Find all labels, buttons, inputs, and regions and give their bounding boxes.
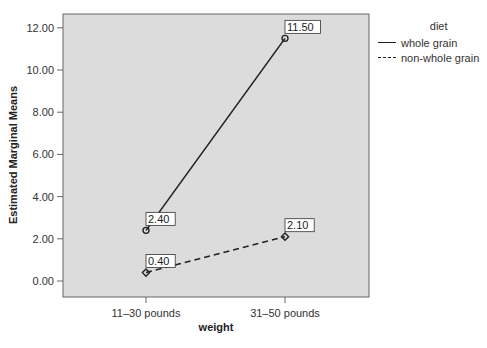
- y-tick-label: 2.00: [33, 233, 54, 245]
- data-label: 11.50: [287, 21, 314, 33]
- y-tick-label: 0.00: [33, 275, 54, 287]
- y-tick-label: 6.00: [33, 148, 54, 160]
- y-axis: 0.002.004.006.008.0010.0012.00: [26, 22, 63, 287]
- data-label: 2.10: [287, 219, 308, 231]
- solid-line-icon: [378, 42, 396, 43]
- y-tick-label: 8.00: [33, 106, 54, 118]
- y-tick-label: 12.00: [26, 22, 54, 34]
- dashed-line-icon: [378, 57, 396, 58]
- x-tick-label: 11–30 pounds: [112, 307, 181, 319]
- y-tick-label: 10.00: [26, 64, 54, 76]
- y-tick-label: 4.00: [33, 191, 54, 203]
- legend-label: whole grain: [401, 37, 457, 49]
- legend: diet whole grain non-whole grain: [378, 20, 479, 65]
- y-axis-title: Estimated Marginal Means: [7, 86, 19, 224]
- x-axis: 11–30 pounds31–50 pounds: [112, 297, 321, 319]
- x-axis-title: weight: [198, 321, 234, 333]
- legend-item-non-whole-grain: non-whole grain: [378, 50, 479, 65]
- legend-label: non-whole grain: [401, 52, 479, 64]
- legend-title: diet: [378, 20, 479, 32]
- data-label: 2.40: [148, 213, 169, 225]
- x-tick-label: 31–50 pounds: [250, 307, 320, 319]
- legend-item-whole-grain: whole grain: [378, 35, 479, 50]
- data-label: 0.40: [148, 255, 169, 267]
